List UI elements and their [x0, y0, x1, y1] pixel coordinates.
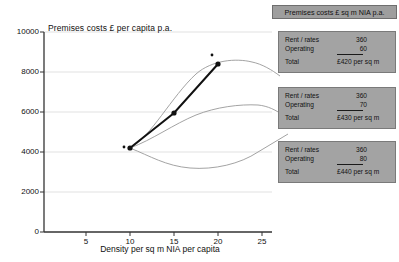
cost-box-440: Rent / rates 360 Operating 80 Total £440… [278, 141, 396, 183]
y-tick-label-6000: 6000 [5, 107, 39, 116]
data-point-accent-left [123, 146, 126, 149]
operating-value: 60 [337, 44, 367, 53]
total-value: £420 per sq m [337, 57, 379, 66]
total-label: Total [285, 113, 337, 122]
y-tick-label-8000: 8000 [5, 67, 39, 76]
y-tick-label-0: 0 [5, 227, 39, 236]
total-label: Total [285, 167, 337, 176]
rent-value: 360 [337, 35, 367, 44]
rent-label: Rent / rates [285, 35, 337, 44]
panel-header: Premises costs £ sq m NIA p.a. [272, 5, 397, 19]
curve-420 [130, 60, 280, 148]
operating-value: 80 [337, 154, 367, 163]
cost-divider [337, 110, 363, 111]
cost-row-operating: Operating 80 [285, 154, 390, 163]
gridlines [44, 32, 272, 192]
trend-line [130, 64, 218, 148]
chart-figure: Premises costs £ per capita p.a. 10000 8… [0, 0, 399, 262]
total-label: Total [285, 57, 337, 66]
rent-value: 360 [337, 145, 367, 154]
rent-label: Rent / rates [285, 145, 337, 154]
x-axis-label: Density per sq m NIA per capita [44, 244, 276, 254]
cost-row-total: Total £430 per sq m [285, 113, 390, 122]
operating-label: Operating [285, 154, 337, 163]
rent-value: 360 [337, 91, 367, 100]
y-tick-label-10000: 10000 [5, 27, 39, 36]
operating-value: 70 [337, 100, 367, 109]
rent-label: Rent / rates [285, 91, 337, 100]
data-point-15-6450 [171, 110, 176, 115]
data-point-accent [211, 54, 214, 57]
chart-title: Premises costs £ per capita p.a. [48, 23, 172, 33]
operating-label: Operating [285, 44, 337, 53]
total-value: £430 per sq m [337, 113, 379, 122]
cost-row-total: Total £440 per sq m [285, 167, 390, 176]
cost-box-420: Rent / rates 360 Operating 60 Total £420… [278, 31, 396, 73]
data-point-20-8400 [215, 61, 220, 66]
y-tick-label-4000: 4000 [5, 147, 39, 156]
cost-row-operating: Operating 70 [285, 100, 390, 109]
cost-row-rent: Rent / rates 360 [285, 91, 390, 100]
data-point-10-4200 [127, 145, 132, 150]
cost-box-430: Rent / rates 360 Operating 70 Total £430… [278, 87, 396, 129]
cost-divider [337, 54, 363, 55]
cost-row-rent: Rent / rates 360 [285, 35, 390, 44]
cost-row-total: Total £420 per sq m [285, 57, 390, 66]
cost-row-operating: Operating 60 [285, 44, 390, 53]
operating-label: Operating [285, 100, 337, 109]
y-tick-label-2000: 2000 [5, 187, 39, 196]
total-value: £440 per sq m [337, 167, 379, 176]
curve-440 [130, 134, 288, 168]
axes [44, 32, 272, 232]
cost-divider [337, 164, 363, 165]
cost-row-rent: Rent / rates 360 [285, 145, 390, 154]
